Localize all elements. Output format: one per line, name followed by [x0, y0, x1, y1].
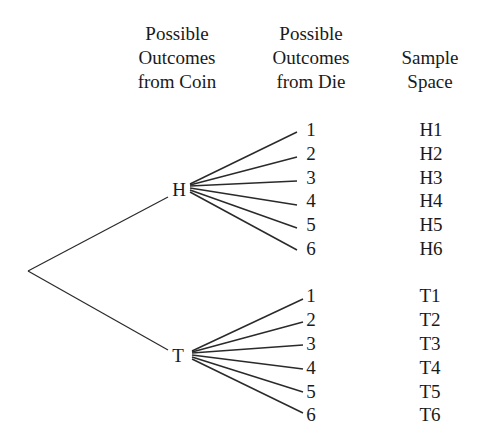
header-coin-line3: from Coin: [112, 70, 242, 94]
header-sample-line1: Sample: [365, 46, 482, 70]
sample-h3: H3: [419, 168, 442, 188]
sample-h4: H4: [419, 191, 442, 211]
sample-t3: T3: [419, 334, 440, 354]
header-die: Possible Outcomes from Die: [246, 22, 376, 94]
header-coin: Possible Outcomes from Coin: [112, 22, 242, 94]
die-outcome-h-5: 5: [306, 215, 316, 235]
branch-root-to-t: [28, 271, 168, 350]
die-outcome-t-1: 1: [306, 286, 316, 306]
die-outcome-h-1: 1: [306, 120, 316, 140]
header-coin-line2: Outcomes: [112, 46, 242, 70]
header-coin-line1: Possible: [112, 22, 242, 46]
coin-outcome-h: H: [172, 180, 186, 200]
die-outcome-t-4: 4: [306, 358, 316, 378]
sample-t5: T5: [419, 382, 440, 402]
sample-t1: T1: [419, 286, 440, 306]
header-die-line3: from Die: [246, 70, 376, 94]
sample-h5: H5: [419, 215, 442, 235]
sample-t6: T6: [419, 405, 440, 425]
h-branches: [190, 132, 297, 250]
sample-t2: T2: [419, 310, 440, 330]
die-outcome-t-2: 2: [306, 310, 316, 330]
header-sample-space: Sample Space: [365, 46, 482, 94]
die-outcome-h-6: 6: [306, 239, 316, 259]
t-branches: [192, 299, 303, 413]
header-die-line2: Outcomes: [246, 46, 376, 70]
sample-t4: T4: [419, 358, 440, 378]
sample-h6: H6: [419, 239, 442, 259]
sample-h1: H1: [419, 120, 442, 140]
die-outcome-h-4: 4: [306, 191, 316, 211]
die-outcome-t-6: 6: [306, 405, 316, 425]
header-die-line1: Possible: [246, 22, 376, 46]
branch-root-to-h: [28, 197, 168, 271]
die-outcome-t-5: 5: [306, 382, 316, 402]
coin-outcome-t: T: [172, 346, 184, 366]
sample-h2: H2: [419, 144, 442, 164]
die-outcome-h-2: 2: [306, 144, 316, 164]
header-sample-line2: Space: [365, 70, 482, 94]
die-outcome-h-3: 3: [306, 168, 316, 188]
die-outcome-t-3: 3: [306, 334, 316, 354]
